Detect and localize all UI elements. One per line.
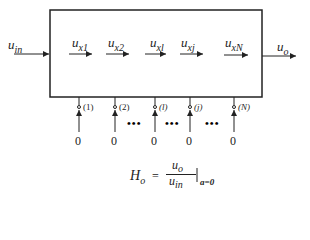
injection-value: 0 (230, 134, 236, 149)
injection-label: (j) (194, 102, 203, 112)
internal-label: uxl (150, 35, 164, 53)
injection-value: 0 (111, 134, 117, 149)
internal-label: uxj (181, 35, 195, 53)
injection-label: (2) (119, 102, 130, 112)
injection-label: (1) (83, 102, 94, 112)
ellipsis: ••• (127, 117, 142, 129)
ellipsis: ••• (165, 117, 180, 129)
injection-label: (N) (238, 102, 250, 112)
internal-label: uxN (225, 35, 243, 53)
injection-value: 0 (151, 134, 157, 149)
injection-label: (l) (159, 102, 168, 112)
internal-label: ux2 (108, 35, 124, 53)
internal-label: ux1 (72, 35, 88, 53)
injection-value: 0 (186, 134, 192, 149)
transfer-formula: Ho = uo uin a=0 (130, 160, 240, 190)
output-label: uo (277, 39, 289, 57)
input-label: uin (8, 37, 22, 55)
injection-value: 0 (75, 134, 81, 149)
ellipsis: ••• (205, 117, 220, 129)
